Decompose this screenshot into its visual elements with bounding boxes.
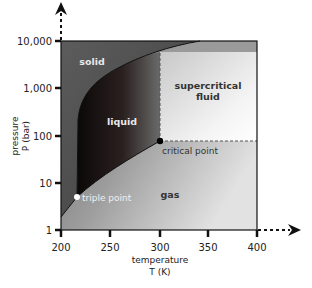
x-tick-label: 300 — [150, 242, 169, 253]
triple-point-label: triple point — [82, 193, 132, 203]
x-axis-ticks — [61, 230, 257, 237]
x-axis-unit: T (K) — [148, 267, 170, 277]
triple-point-marker — [74, 194, 80, 200]
x-tick-label: 250 — [100, 242, 119, 253]
supercritical-label-line2: fluid — [196, 91, 220, 102]
x-tick-label: 200 — [51, 242, 70, 253]
y-tick-label: 100 — [33, 131, 52, 142]
x-tick-label: 350 — [198, 242, 217, 253]
critical-point-marker — [157, 138, 163, 144]
y-axis-ticks — [55, 41, 61, 230]
y-tick-label: 1 — [46, 225, 52, 236]
phase-diagram-chart: 10,000 1,000 100 10 1 200 250 300 350 40… — [0, 0, 312, 288]
solid-label: solid — [79, 56, 105, 67]
y-tick-label: 10 — [39, 178, 52, 189]
y-axis-unit: P (bar) — [21, 121, 31, 151]
x-axis-title: temperature — [132, 255, 189, 265]
y-tick-label: 1,000 — [23, 83, 52, 94]
supercritical-label-line1: supercritical — [174, 80, 241, 91]
critical-point-label: critical point — [162, 146, 218, 156]
y-axis-title: pressure — [10, 116, 20, 155]
y-tick-label: 10,000 — [17, 36, 52, 47]
gas-label: gas — [161, 189, 180, 200]
x-tick-label: 400 — [247, 242, 266, 253]
liquid-label: liquid — [107, 116, 137, 127]
